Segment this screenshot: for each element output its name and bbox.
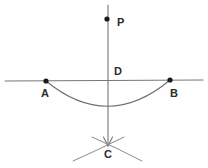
point-b-marker: [167, 77, 172, 82]
diagram-canvas: [0, 0, 208, 168]
point-p-marker: [104, 16, 109, 21]
line-ab: [5, 80, 203, 81]
label-c: C: [104, 149, 112, 160]
label-b: B: [170, 88, 178, 99]
arc-cross-left: [73, 137, 124, 161]
label-p: P: [117, 17, 124, 28]
construction-diagram: P D A B C: [0, 0, 208, 168]
label-d: D: [114, 66, 122, 77]
point-a-marker: [43, 78, 48, 83]
label-a: A: [41, 88, 49, 99]
